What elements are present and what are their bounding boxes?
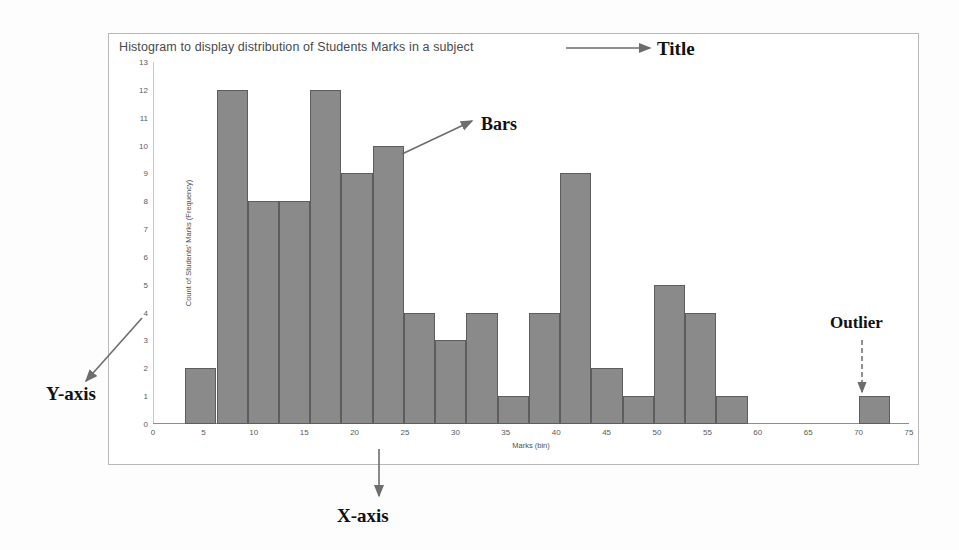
y-axis-tick: 13 xyxy=(139,58,148,67)
annotation-bars-label: Bars xyxy=(481,114,517,135)
histogram-bar xyxy=(560,173,591,424)
y-axis-tick: 1 xyxy=(144,392,148,401)
y-axis-tick: 11 xyxy=(140,113,148,122)
histogram-bar xyxy=(435,340,466,424)
x-axis-tick: 0 xyxy=(151,428,155,437)
chart-title: Histogram to display distribution of Stu… xyxy=(119,40,473,54)
page-canvas: Histogram to display distribution of Stu… xyxy=(0,0,959,550)
histogram-bar xyxy=(859,396,890,424)
x-axis-tick: 20 xyxy=(350,428,359,437)
y-axis-tick: 10 xyxy=(139,141,148,150)
annotation-title-label: Title xyxy=(657,38,695,60)
y-axis-tick: 2 xyxy=(144,364,148,373)
plot-area: Count of Students' Marks (Frequency) Mar… xyxy=(153,62,909,424)
x-axis-tick: 5 xyxy=(201,428,205,437)
y-axis-tick: 7 xyxy=(144,225,148,234)
histogram-bar xyxy=(341,173,372,424)
histogram-bar xyxy=(279,201,310,424)
histogram-bar xyxy=(310,90,341,424)
y-axis-tick: 3 xyxy=(144,336,148,345)
histogram-bar xyxy=(217,90,248,424)
histogram-bar xyxy=(248,201,279,424)
x-axis-tick: 55 xyxy=(703,428,712,437)
y-axis-tick: 0 xyxy=(144,420,148,429)
histogram-bar xyxy=(716,396,747,424)
x-axis-tick: 45 xyxy=(602,428,611,437)
y-axis-tick: 5 xyxy=(144,280,148,289)
annotation-yaxis-label: Y-axis xyxy=(46,383,96,405)
annotation-xaxis-label: X-axis xyxy=(337,505,389,527)
x-axis-title: Marks (bin) xyxy=(512,441,550,450)
histogram-bar xyxy=(654,285,685,424)
bars-layer xyxy=(153,62,909,424)
x-axis-tick: 75 xyxy=(905,428,914,437)
histogram-bar xyxy=(185,368,216,424)
y-axis-tick: 8 xyxy=(144,197,148,206)
histogram-bar xyxy=(498,396,529,424)
annotation-outlier-label: Outlier xyxy=(830,313,883,333)
x-axis-tick: 60 xyxy=(753,428,762,437)
y-axis-tick: 6 xyxy=(144,252,148,261)
histogram-bar xyxy=(591,368,622,424)
x-axis-tick: 30 xyxy=(451,428,460,437)
histogram-bar xyxy=(685,313,716,424)
histogram-bar xyxy=(623,396,654,424)
y-axis-tick: 4 xyxy=(144,308,148,317)
y-axis-tick: 9 xyxy=(144,169,148,178)
x-axis-tick: 65 xyxy=(804,428,813,437)
histogram-bar xyxy=(529,313,560,424)
x-axis-tick: 15 xyxy=(300,428,309,437)
x-axis-tick: 50 xyxy=(653,428,662,437)
histogram-bar xyxy=(373,146,404,424)
chart-frame: Histogram to display distribution of Stu… xyxy=(108,33,919,465)
x-axis-tick: 10 xyxy=(249,428,258,437)
histogram-bar xyxy=(466,313,497,424)
x-axis-tick: 40 xyxy=(552,428,561,437)
x-axis-tick: 25 xyxy=(401,428,410,437)
histogram-bar xyxy=(404,313,435,424)
x-axis-tick: 35 xyxy=(501,428,510,437)
y-axis-tick: 12 xyxy=(139,85,148,94)
x-axis-tick: 70 xyxy=(854,428,863,437)
